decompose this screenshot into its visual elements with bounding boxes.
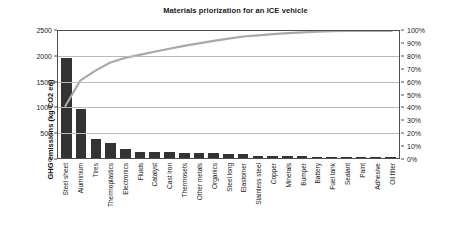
bar [208, 153, 219, 158]
x-axis-label: Catalyst [151, 163, 158, 186]
x-axis-label: Organics [210, 163, 217, 189]
y-axis-right-tickmark [401, 159, 404, 160]
bar [341, 157, 352, 158]
y-axis-right-tickmark [401, 107, 404, 108]
y-axis-right: 0%10%20%30%40%50%60%70%80%90%100% [402, 30, 440, 159]
x-axis-label: Oil filter [388, 163, 395, 185]
x-label-slot: Sealant [340, 161, 355, 235]
x-label-slot: Tires [88, 161, 103, 235]
bar [194, 153, 205, 158]
bar [91, 139, 102, 158]
bar-slot [103, 31, 118, 158]
x-label-slot: Cast iron [162, 161, 177, 235]
y-axis-right-tick: 50% [407, 91, 421, 98]
x-label-slot: Other metals [191, 161, 206, 235]
y-axis-right-tick: 80% [407, 52, 421, 59]
x-axis-label: Cast iron [166, 163, 173, 189]
y-axis-right-tick: 90% [407, 39, 421, 46]
y-axis-right-tickmark [401, 133, 404, 134]
x-axis-label: Tires [92, 163, 99, 177]
bar-slot [236, 31, 251, 158]
bar [297, 156, 308, 158]
x-label-slot: Minerals [280, 161, 295, 235]
x-label-slot: Stainless steel [251, 161, 266, 235]
bar [223, 154, 234, 158]
gridline [58, 133, 399, 134]
bar [267, 156, 278, 158]
bar [356, 157, 367, 158]
y-axis-right-tickmark [401, 42, 404, 43]
y-axis-left-tick: 1000 [36, 104, 52, 111]
bar-slot [383, 31, 398, 158]
gridline [58, 107, 399, 108]
x-label-slot: Bumper [295, 161, 310, 235]
x-label-slot: Copper [266, 161, 281, 235]
x-axis-label: Stainless steel [255, 163, 262, 205]
bar [312, 157, 323, 158]
bars-layer [58, 31, 399, 158]
y-axis-left-tick: 2000 [36, 52, 52, 59]
x-label-slot: Steel sheet [58, 161, 73, 235]
bar-slot [309, 31, 324, 158]
x-label-slot: Fuel tank [325, 161, 340, 235]
x-axis-label: Fluids [136, 163, 143, 180]
bar-slot [118, 31, 133, 158]
x-label-slot: Thermosets [177, 161, 192, 235]
x-axis-label: Electronics [121, 163, 128, 195]
x-axis-label: Fuel tank [329, 163, 336, 190]
y-axis-right-tick: 0% [407, 156, 417, 163]
y-axis-right-tickmark [401, 94, 404, 95]
bar [135, 152, 146, 158]
bar [120, 149, 131, 158]
x-axis-category-labels: Steel sheetAluminiumTiresThermoplasticsE… [57, 161, 400, 235]
x-axis-label: Elastomer [240, 163, 247, 192]
x-label-slot: Paint [355, 161, 370, 235]
chart-title: Materials priorization for an ICE vehicl… [0, 6, 471, 15]
x-label-slot: Fluids [132, 161, 147, 235]
bar [105, 143, 116, 158]
bar-slot [177, 31, 192, 158]
x-axis-label: Aluminium [77, 163, 84, 193]
x-axis-label: Paint [358, 163, 365, 178]
bar [385, 157, 396, 158]
y-axis-right-tick: 40% [407, 104, 421, 111]
bar-slot [368, 31, 383, 158]
bar-slot [265, 31, 280, 158]
bar-slot [192, 31, 207, 158]
bar-slot [354, 31, 369, 158]
bar-slot [59, 31, 74, 158]
bar-slot [74, 31, 89, 158]
bar-slot [162, 31, 177, 158]
x-axis-label: Other metals [195, 163, 202, 200]
y-axis-right-tick: 60% [407, 78, 421, 85]
bar-slot [147, 31, 162, 158]
x-axis-label: Minerals [284, 163, 291, 188]
bar [282, 156, 293, 158]
y-axis-right-tick: 30% [407, 117, 421, 124]
y-axis-right-tickmark [401, 120, 404, 121]
bar-slot [206, 31, 221, 158]
bar-slot [280, 31, 295, 158]
x-label-slot: Elastomer [236, 161, 251, 235]
bar [253, 156, 264, 158]
x-axis-label: Thermosets [181, 163, 188, 197]
y-axis-right-tickmark [401, 81, 404, 82]
bar [179, 153, 190, 158]
y-axis-right-tick: 20% [407, 130, 421, 137]
bar [149, 152, 160, 158]
x-label-slot: Electronics [117, 161, 132, 235]
x-axis-label: Thermoplastics [106, 163, 113, 207]
x-label-slot: Aluminium [73, 161, 88, 235]
x-label-slot: Catalyst [147, 161, 162, 235]
x-label-slot: Adhesive [369, 161, 384, 235]
bar-slot [88, 31, 103, 158]
y-axis-right-tickmark [401, 68, 404, 69]
y-axis-right-tick: 70% [407, 65, 421, 72]
y-axis-left: GHG emissions (kg CO2 eq) 05001000150020… [24, 30, 55, 159]
x-axis-label: Bumper [299, 163, 306, 186]
y-axis-left-tick: 1500 [36, 78, 52, 85]
pareto-chart: Materials priorization for an ICE vehicl… [0, 0, 471, 237]
y-axis-right-tick: 10% [407, 143, 421, 150]
x-label-slot: Thermoplastics [102, 161, 117, 235]
bar-slot [295, 31, 310, 158]
